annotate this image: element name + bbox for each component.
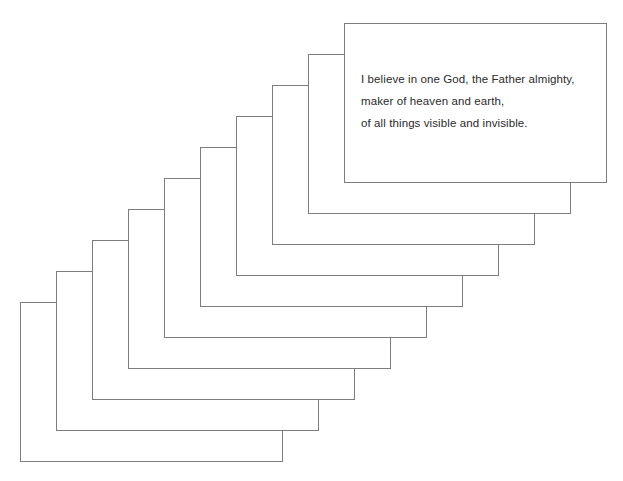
card-1-front[interactable]: I believe in one God, the Father almight…: [344, 23, 607, 183]
slide-canvas: I believe in one God, the Father almight…: [0, 0, 623, 481]
front-card-text-block: I believe in one God, the Father almight…: [361, 68, 592, 134]
front-card-text-line-2: maker of heaven and earth,: [361, 90, 592, 112]
front-card-text-line-3: of all things visible and invisible.: [361, 112, 592, 134]
front-card-text-line-1: I believe in one God, the Father almight…: [361, 68, 592, 90]
